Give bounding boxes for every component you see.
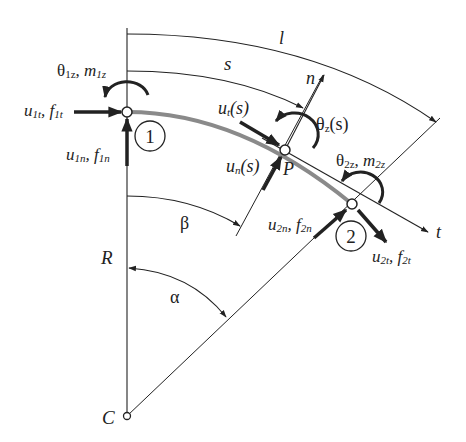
- label-un-s: un(s): [226, 156, 260, 177]
- node-1-point: [122, 107, 132, 117]
- center-c-point: [124, 413, 131, 420]
- point-p: [280, 145, 290, 155]
- label-c: C: [102, 407, 115, 428]
- label-u2n-f2n: u2n, f2n: [268, 215, 312, 234]
- label-n: n: [306, 68, 315, 88]
- node-2-point: [347, 199, 357, 209]
- label-t: t: [436, 222, 442, 242]
- label-ut-s: ut(s): [218, 98, 249, 119]
- label-beta: β: [180, 213, 189, 233]
- label-theta2z-m2z: θ2z, m2z: [336, 151, 386, 170]
- label-theta1z-m1z: θ1z, m1z: [57, 61, 107, 80]
- label-r: R: [100, 247, 113, 268]
- force-un-s-arrow: [263, 157, 281, 190]
- moment-thetaz-s-arrow: [276, 113, 318, 148]
- label-s: s: [224, 53, 231, 74]
- label-u2t-f2t: u2t, f2t: [372, 247, 412, 266]
- label-u1t-f1t: u1t, f1t: [24, 101, 64, 120]
- label-p: P: [282, 159, 294, 179]
- force-ut-s-arrow: [240, 122, 279, 145]
- label-l: l: [279, 28, 284, 48]
- dimension-s-arc: [127, 71, 303, 108]
- node-2-label: 2: [346, 226, 356, 247]
- label-thetaz-s: θz(s): [316, 114, 349, 135]
- curved-beam-diagram: 1 2 l s n t P R C β α θ1z, m1z u1t, f1t …: [0, 0, 466, 442]
- label-alpha: α: [170, 287, 180, 307]
- label-u1n-f1n: u1n, f1n: [66, 145, 110, 164]
- node-1-label: 1: [145, 126, 155, 147]
